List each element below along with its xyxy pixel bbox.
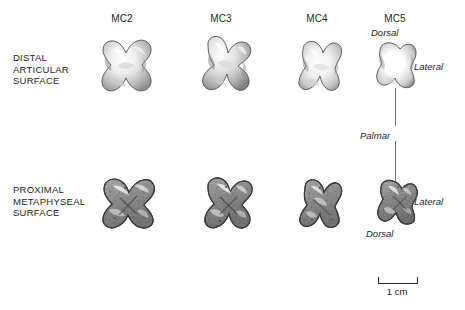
- row-label-proximal: PROXIMAL METAPHYSEAL SURFACE: [13, 184, 85, 219]
- scale-bar: [378, 277, 418, 284]
- specimen-mc2-distal: [93, 36, 159, 96]
- scale-bar-caption: 1 cm: [367, 286, 427, 297]
- row-label-proximal-line2: METAPHYSEAL: [13, 196, 85, 208]
- column-header-mc2: MC2: [92, 13, 152, 24]
- orientation-label-palmar: Palmar: [360, 130, 390, 141]
- row-label-distal-line2: ARTICULAR: [13, 64, 69, 76]
- orientation-label-dorsal-top: Dorsal: [371, 27, 398, 38]
- row-label-proximal-line1: PROXIMAL: [13, 184, 85, 196]
- specimen-mc5-distal: [373, 40, 419, 90]
- connector-line-lower: [395, 141, 396, 181]
- anatomical-figure: MC2 MC3 MC4 MC5 DISTAL ARTICULAR SURFACE…: [0, 0, 465, 310]
- row-label-proximal-line3: SURFACE: [13, 207, 85, 219]
- row-label-distal: DISTAL ARTICULAR SURFACE: [13, 52, 69, 87]
- column-header-mc5: MC5: [365, 13, 425, 24]
- orientation-label-dorsal-bottom: Dorsal: [366, 228, 393, 239]
- specimen-mc3-distal: [194, 33, 256, 97]
- column-header-mc3: MC3: [191, 13, 251, 24]
- specimen-mc4-proximal: [294, 176, 346, 232]
- specimen-mc5-proximal: [374, 178, 420, 228]
- specimen-mc3-proximal: [196, 174, 258, 234]
- connector-line-upper: [395, 88, 396, 126]
- column-header-mc4: MC4: [287, 13, 347, 24]
- row-label-distal-line1: DISTAL: [13, 52, 69, 64]
- specimen-mc2-proximal: [95, 174, 161, 234]
- row-label-distal-line3: SURFACE: [13, 75, 69, 87]
- specimen-mc4-distal: [293, 38, 345, 94]
